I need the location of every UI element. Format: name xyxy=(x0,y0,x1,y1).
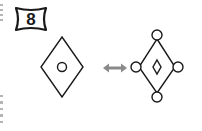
diamond-shape xyxy=(41,37,83,97)
inner-circle-icon xyxy=(58,63,67,72)
top-vertex-circle-icon xyxy=(152,30,162,40)
left-vertex-circle-icon xyxy=(131,62,141,72)
analogy-diagram xyxy=(0,0,202,131)
right-vertex-circle-icon xyxy=(173,62,183,72)
bottom-vertex-circle-icon xyxy=(152,92,162,102)
diamond-shape xyxy=(139,39,175,93)
left-diamond-figure xyxy=(41,37,83,97)
right-diamond-figure xyxy=(131,30,183,102)
inner-small-diamond-icon xyxy=(153,60,161,74)
double-arrow-icon xyxy=(103,64,127,73)
